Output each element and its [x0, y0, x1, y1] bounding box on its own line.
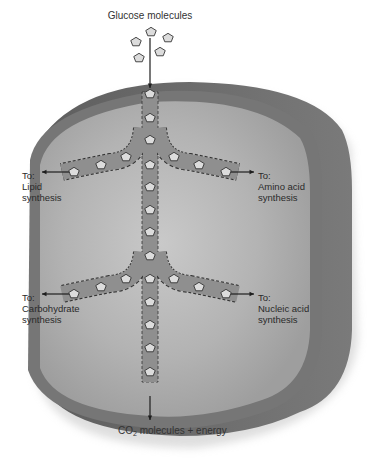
amino-acid-synthesis-label: To: Amino acid synthesis: [258, 170, 305, 203]
pathway-process: synthesis: [258, 314, 309, 325]
pathway-process: synthesis: [258, 192, 305, 203]
free-glucose-molecule: [155, 47, 165, 55]
to-label: To:: [22, 170, 62, 181]
pathway-process: synthesis: [22, 192, 62, 203]
pathway-process: synthesis: [22, 314, 80, 325]
carbohydrate-synthesis-label: To: Carbohydrate synthesis: [22, 292, 80, 325]
pathway-name: Carbohydrate: [22, 303, 80, 314]
pathway-name: Nucleic acid: [258, 303, 309, 314]
pathway-name: Amino acid: [258, 181, 305, 192]
co2-suffix: molecules + energy: [137, 425, 227, 436]
free-glucose-molecule: [131, 37, 141, 45]
free-glucose-molecule: [163, 33, 173, 41]
co2-energy-label: CO2 molecules + energy: [118, 425, 227, 439]
to-label: To:: [22, 292, 80, 303]
glycolysis-cell-diagram: [0, 0, 367, 462]
pathway-name: Lipid: [22, 181, 62, 192]
lipid-synthesis-label: To: Lipid synthesis: [22, 170, 62, 203]
glucose-molecules-label: Glucose molecules: [0, 10, 300, 21]
co2-prefix: CO: [118, 425, 133, 436]
free-glucose-molecule: [134, 53, 144, 61]
to-label: To:: [258, 170, 305, 181]
nucleic-acid-synthesis-label: To: Nucleic acid synthesis: [258, 292, 309, 325]
to-label: To:: [258, 292, 309, 303]
free-glucose-molecule: [146, 27, 156, 35]
